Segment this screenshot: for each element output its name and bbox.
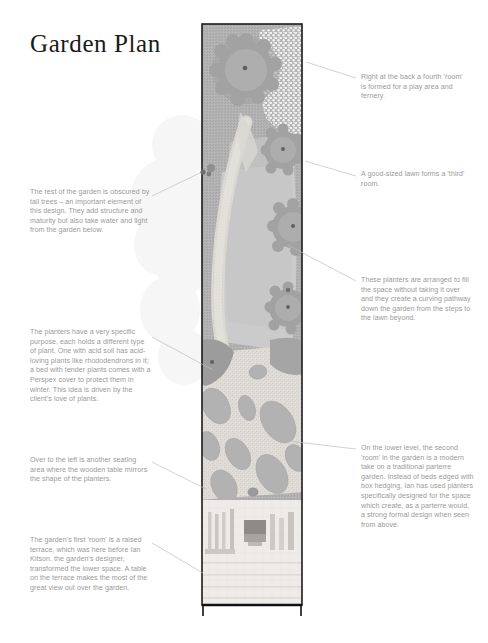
annotation-seating-area: Over to the left is another seating area…	[30, 456, 152, 485]
annotation-first-room-terrace: The garden's first 'room' is a raised te…	[30, 536, 152, 594]
annotation-curving-pathway: These planters are arranged to fill the …	[361, 276, 473, 324]
annotation-lawn-third-room: A good-sized lawn forms a 'third' room.	[361, 170, 469, 189]
leader-tall-trees	[152, 172, 202, 196]
annotation-tall-trees: The rest of the garden is obscured by ta…	[30, 188, 150, 236]
annotation-planters-purpose: The planters have a very specific purpos…	[30, 328, 152, 405]
leader-lawn	[305, 161, 356, 176]
garden-plan-drawing	[200, 22, 304, 617]
leader-seating	[152, 462, 206, 489]
plan-illustration	[200, 22, 304, 617]
leader-fourth-room	[306, 62, 356, 78]
annotation-parterre-second-room: On the lower level, the second 'room' in…	[361, 444, 475, 530]
garden-plan-page: Garden Plan	[0, 0, 488, 643]
leader-terrace	[152, 543, 203, 573]
annotation-fourth-room: Right at the back a fourth 'room' is for…	[361, 73, 469, 102]
page-title: Garden Plan	[30, 30, 161, 58]
